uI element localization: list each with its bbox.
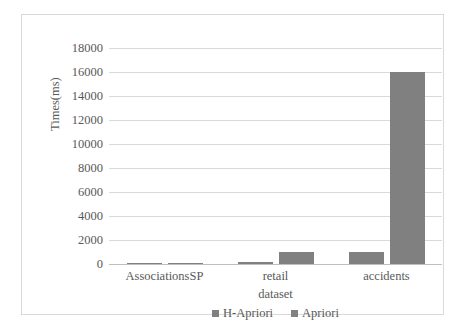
x-axis-tick-labels: AssociationsSPretailaccidents	[109, 269, 442, 284]
y-axis-tick-label: 16000	[72, 66, 103, 79]
legend-item[interactable]: H-Apriori	[212, 306, 273, 321]
x-axis-tick-label: AssociationsSP	[109, 269, 220, 284]
bar-group	[109, 48, 220, 264]
x-axis-title: dataset	[109, 287, 442, 302]
bar	[238, 262, 273, 264]
gridline	[109, 264, 442, 265]
y-axis-tick-label: 0	[97, 258, 103, 271]
y-axis-tick-label: 10000	[72, 138, 103, 151]
chart-frame: Times(ms) 020004000600080001000012000140…	[21, 14, 444, 315]
bar	[349, 252, 384, 264]
legend-label: H-Apriori	[223, 306, 273, 321]
legend-item[interactable]: Apriori	[291, 306, 339, 321]
legend-label: Apriori	[302, 306, 339, 321]
legend-swatch-icon	[212, 310, 219, 317]
y-axis-tick-label: 4000	[78, 210, 103, 223]
bar-groups	[109, 48, 442, 264]
bar	[390, 72, 425, 264]
y-axis-tick-label: 6000	[78, 186, 103, 199]
y-axis-tick-label: 12000	[72, 114, 103, 127]
bar-group	[331, 48, 442, 264]
bar	[127, 263, 162, 265]
bar	[279, 252, 314, 264]
legend-swatch-icon	[291, 310, 298, 317]
x-axis-tick-label: retail	[220, 269, 331, 284]
figure-canvas: Times(ms) 020004000600080001000012000140…	[0, 0, 465, 331]
plot-area: 0200040006000800010000120001400016000180…	[109, 48, 442, 264]
y-axis-tick-label: 18000	[72, 42, 103, 55]
y-axis-tick-label: 14000	[72, 90, 103, 103]
y-axis-tick-label: 8000	[78, 162, 103, 175]
y-axis-title: Times(ms)	[48, 115, 63, 131]
bar-group	[220, 48, 331, 264]
bar	[168, 263, 203, 265]
y-axis-tick-label: 2000	[78, 234, 103, 247]
chart-legend: H-AprioriApriori	[109, 306, 442, 321]
x-axis-tick-label: accidents	[331, 269, 442, 284]
